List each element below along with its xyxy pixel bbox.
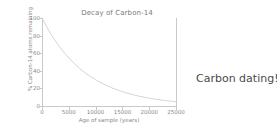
x-tick-label: 10000	[87, 109, 105, 115]
decay-curve-svg	[42, 18, 176, 106]
x-axis-line	[42, 106, 177, 107]
decay-curve	[42, 18, 176, 102]
x-tick-label: 0	[40, 109, 44, 115]
caption-text: Carbon dating!	[196, 72, 277, 85]
x-tick-label: 15000	[114, 109, 132, 115]
x-tick-label: 5000	[62, 109, 76, 115]
x-tick-label: 25000	[167, 109, 185, 115]
plot-right-border	[176, 18, 177, 107]
plot-area	[42, 18, 176, 106]
x-tick-label: 20000	[140, 109, 158, 115]
y-axis-label: % Carbon-14 atoms remaining	[27, 3, 33, 95]
carbon-14-decay-chart: Decay of Carbon-14 100 80 60 40 20 0 0 5…	[14, 4, 194, 132]
x-axis-label: Age of sample (years)	[42, 117, 176, 123]
chart-title: Decay of Carbon-14	[42, 9, 192, 17]
